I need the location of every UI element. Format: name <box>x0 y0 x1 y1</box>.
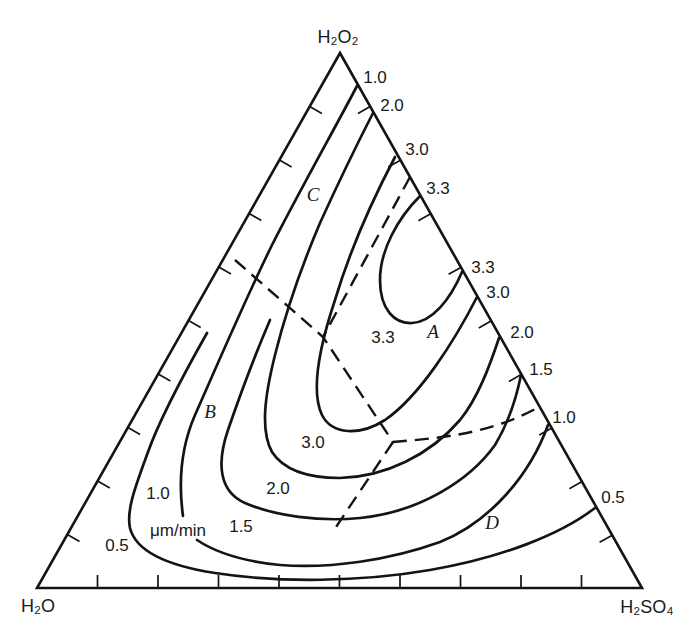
boundary-upper <box>323 177 410 337</box>
contour-3.3-loop <box>380 196 462 323</box>
contour-label-3.3: 3.3 <box>371 328 395 347</box>
unit-label: μm/min <box>150 521 206 540</box>
right-edge-ticks <box>358 107 612 543</box>
edge-label: 1.0 <box>552 408 576 427</box>
contour-1.0-upper <box>181 86 357 516</box>
vertex-label-bottom-left: H₂O <box>21 596 55 616</box>
ternary-triangle-frame <box>37 53 642 588</box>
contour-label-0.5: 0.5 <box>105 536 129 555</box>
region-label-d: D <box>484 512 499 533</box>
edge-label: 2.0 <box>380 96 404 115</box>
contour-3.0 <box>317 157 477 431</box>
ternary-etch-rate-diagram: H₂O₂ H₂O H₂SO₄ 1.0 2.0 3.0 3.3 3.3 3.0 2… <box>0 0 700 633</box>
edge-label: 3.3 <box>426 179 450 198</box>
vertex-label-top: H₂O₂ <box>318 27 359 47</box>
region-label-a: A <box>425 321 439 342</box>
edge-label: 1.0 <box>363 68 387 87</box>
region-label-b: B <box>204 401 216 422</box>
contour-label-3.0: 3.0 <box>301 433 325 452</box>
edge-label: 0.5 <box>601 488 625 507</box>
contour-label-2.0: 2.0 <box>266 479 290 498</box>
boundary-left <box>235 260 393 442</box>
edge-label: 3.3 <box>471 258 495 277</box>
contour-label-1.0: 1.0 <box>146 484 170 503</box>
bottom-edge-ticks <box>98 575 582 588</box>
boundary-lower <box>332 442 393 533</box>
edge-label: 3.0 <box>486 283 510 302</box>
region-labels: A B C D <box>204 184 499 533</box>
vertex-label-bottom-right: H₂SO₄ <box>620 597 673 617</box>
edge-label: 1.5 <box>529 360 553 379</box>
contour-label-1.5: 1.5 <box>229 517 253 536</box>
region-label-c: C <box>307 184 320 205</box>
interior-contour-labels: 3.3 3.0 2.0 1.5 1.0 μm/min 0.5 <box>105 328 395 555</box>
edge-label: 3.0 <box>405 140 429 159</box>
edge-label: 2.0 <box>510 323 534 342</box>
